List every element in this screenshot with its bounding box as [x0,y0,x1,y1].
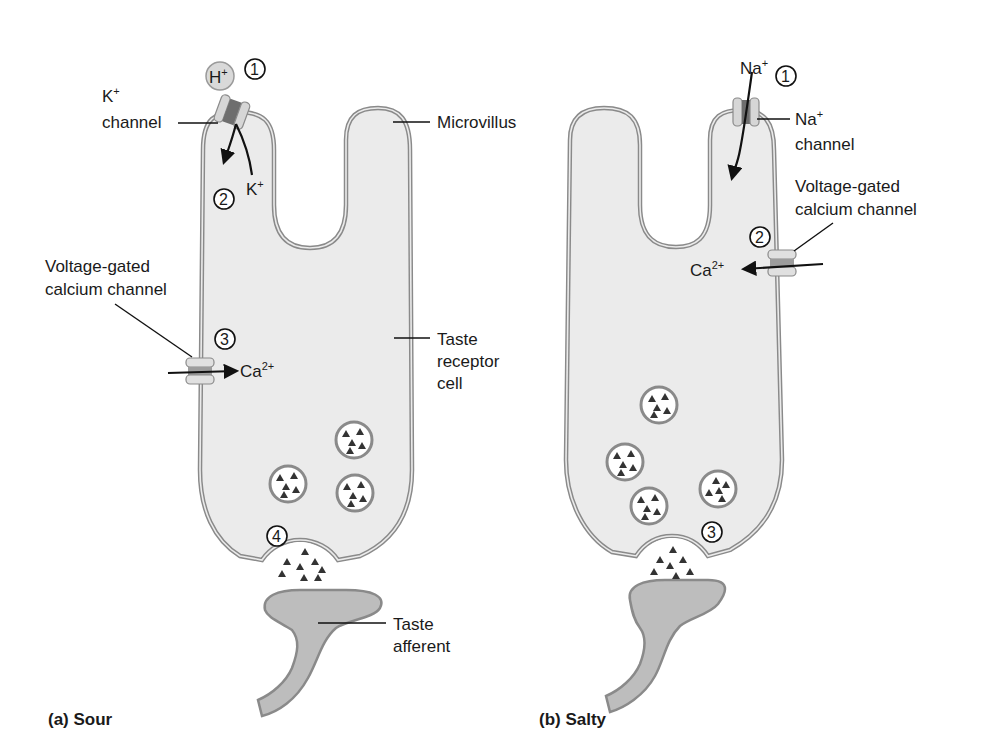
taste-transduction-diagram: H+ K+ channel K+ Microvillus Voltage-gat… [0,0,1000,744]
na-ion-label: Na+ [740,57,768,78]
step-3-salty: 3 [702,522,722,542]
step-2-sour: 2 [214,189,234,209]
taste-afferent-sour [258,590,381,716]
vgcc-leader-sour [115,304,192,357]
svg-text:2: 2 [755,229,764,246]
svg-text:4: 4 [272,528,281,545]
vesicle [700,471,736,507]
vesicle [641,387,677,423]
step-2-salty: 2 [750,227,770,247]
receptor-cell-label-2: receptor [437,352,500,371]
caption-salty: (b) Salty [539,710,607,729]
afferent-label-1: Taste [393,615,434,634]
microvillus-label: Microvillus [437,113,516,132]
vesicle [607,444,643,480]
svg-text:1: 1 [250,61,259,78]
voltage-gated-calcium-channel-salty [768,250,796,276]
panel-sour: H+ K+ channel K+ Microvillus Voltage-gat… [45,59,516,729]
svg-text:3: 3 [220,331,229,348]
caption-sour: (a) Sour [48,710,113,729]
step-1-sour: 1 [245,59,265,79]
svg-text:3: 3 [707,524,716,541]
vgcc-leader-salty [794,223,833,251]
panel-salty: Na+ Na+ channel Voltage-gated calcium ch… [539,57,917,729]
vgcc-label-salty-2: calcium channel [795,200,917,219]
taste-receptor-cell-salty [566,108,782,556]
svg-text:1: 1 [781,68,790,85]
receptor-cell-label-3: cell [437,374,463,393]
vgcc-label-salty-1: Voltage-gated [795,177,900,196]
afferent-label-2: afferent [393,637,451,656]
k-channel-label: K+ [102,85,120,106]
step-1-salty: 1 [776,66,796,86]
taste-afferent-salty [606,580,725,712]
vesicle [270,466,306,502]
vgcc-label-sour-1: Voltage-gated [45,257,150,276]
vesicle [336,422,372,458]
h-ion: H+ [206,62,234,90]
k-channel-label-2: channel [102,113,162,132]
na-channel-label: Na+ [795,108,823,129]
step-3-sour: 3 [215,329,235,349]
svg-text:2: 2 [219,191,228,208]
vesicle [337,475,373,511]
step-4-sour: 4 [267,526,287,546]
vesicle [631,488,667,524]
na-channel-label-2: channel [795,135,855,154]
receptor-cell-label-1: Taste [437,330,478,349]
vgcc-label-sour-2: calcium channel [45,280,167,299]
